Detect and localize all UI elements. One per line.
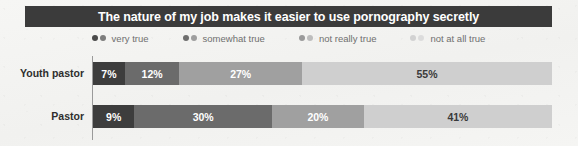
bar-value-label: 30% [193, 111, 214, 123]
stacked-bar-youth-pastor: 7% 12% 27% 55% [93, 62, 552, 85]
row-label-youth-pastor: Youth pastor [20, 62, 84, 85]
bar-segment-not-at-all-true: 55% [302, 62, 552, 85]
legend-label-very-true: very true [112, 33, 149, 44]
legend-dot-light-icon [307, 35, 313, 41]
bar-value-label: 7% [101, 68, 116, 80]
legend-item-very-true: very true [92, 33, 149, 44]
bar-value-label: 20% [307, 111, 328, 123]
bar-value-label: 55% [417, 68, 438, 80]
stacked-bar-pastor: 9% 30% 20% 41% [93, 105, 552, 128]
legend-label-not-at-all-true: not at all true [430, 33, 485, 44]
legend-dot-dark-icon [92, 35, 98, 41]
chart-legend: very true somewhat true not really true … [25, 30, 552, 46]
bar-row-pastor: Pastor 9% 30% 20% 41% [0, 105, 578, 128]
legend-swatch-somewhat-true [183, 35, 197, 41]
bar-value-label: 9% [106, 111, 121, 123]
legend-label-somewhat-true: somewhat true [203, 33, 265, 44]
bar-segment-not-really-true: 27% [179, 62, 302, 85]
bar-segment-not-at-all-true: 41% [364, 105, 552, 128]
chart-title-banner: The nature of my job makes it easier to … [25, 6, 552, 27]
legend-swatch-not-at-all-true [410, 35, 424, 41]
legend-dot-light-icon [100, 35, 106, 41]
bar-segment-very-true: 7% [93, 62, 125, 85]
legend-dot-light-icon [191, 35, 197, 41]
bar-segment-not-really-true: 20% [272, 105, 364, 128]
legend-swatch-very-true [92, 35, 106, 41]
legend-item-somewhat-true: somewhat true [183, 33, 265, 44]
bar-segment-very-true: 9% [93, 105, 134, 128]
bar-value-label: 27% [230, 68, 251, 80]
legend-dot-dark-icon [183, 35, 189, 41]
legend-item-not-really-true: not really true [299, 33, 377, 44]
bar-value-label: 12% [142, 68, 163, 80]
page-title: The nature of my job makes it easier to … [98, 10, 479, 24]
legend-swatch-not-really-true [299, 35, 313, 41]
legend-dot-light-icon [418, 35, 424, 41]
stacked-bar-chart: The nature of my job makes it easier to … [0, 0, 578, 146]
bar-segment-somewhat-true: 12% [125, 62, 180, 85]
legend-dot-dark-icon [410, 35, 416, 41]
row-label-pastor: Pastor [51, 105, 84, 128]
bar-segment-somewhat-true: 30% [134, 105, 272, 128]
legend-label-not-really-true: not really true [319, 33, 377, 44]
legend-dot-dark-icon [299, 35, 305, 41]
bar-row-youth-pastor: Youth pastor 7% 12% 27% 55% [0, 62, 578, 85]
bar-value-label: 41% [447, 111, 468, 123]
legend-item-not-at-all-true: not at all true [410, 33, 485, 44]
